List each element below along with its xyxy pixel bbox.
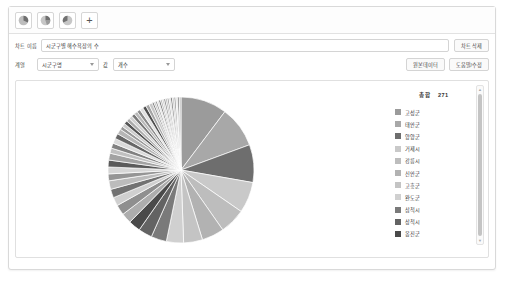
legend-color-swatch [395, 182, 401, 188]
legend-item[interactable]: 상척시 [395, 216, 482, 228]
value-select-value: 개수 [118, 61, 128, 68]
legend-color-swatch [395, 207, 401, 213]
chart-editor-window: + 차트 이름 시군구별 해수욕장의 수 차트 삭제 계열 시군구명 값 개수 … [8, 6, 496, 270]
legend-item[interactable]: 신안군 [395, 167, 482, 179]
series-select-value: 시군구명 [42, 61, 62, 68]
scroll-down-arrow-icon[interactable]: ▼ [477, 237, 483, 244]
legend-total-label: 총합 [419, 92, 430, 98]
pie-chart-icon [40, 15, 51, 26]
value-select[interactable]: 개수 [113, 58, 175, 71]
legend-item-label: 상척시 [405, 218, 420, 225]
legend-item[interactable]: 태안군 [395, 118, 482, 130]
chart-name-label: 차트 이름 [15, 42, 41, 49]
legend-color-swatch [395, 194, 401, 200]
legend-item-label: 양양군 [405, 133, 420, 140]
legend-total-value: 271 [438, 92, 449, 98]
scrollbar-thumb[interactable] [478, 94, 482, 236]
legend-item-label: 강릉시 [405, 157, 420, 164]
legend-color-swatch [395, 121, 401, 127]
legend-item[interactable]: 완도군 [395, 191, 482, 203]
legend-scrollbar[interactable]: ▲ ▼ [476, 85, 484, 245]
legend-item-label: 고성군 [405, 109, 420, 116]
legend-item[interactable]: 옹진군 [395, 228, 482, 240]
legend-color-swatch [395, 170, 401, 176]
legend-item-label: 신안군 [405, 170, 420, 177]
chart-legend: 총합 271 고성군태안군양양군거제시강릉시신안군고흥군완도군삼척시상척시옹진군 [386, 86, 482, 252]
legend-item-label: 삼척시 [405, 206, 420, 213]
chevron-down-icon [166, 63, 170, 66]
chart-type-toolbar: + [9, 7, 495, 34]
legend-color-swatch [395, 231, 401, 237]
legend-total: 총합 271 [386, 91, 482, 99]
legend-item[interactable]: 고흥군 [395, 179, 482, 191]
pie-chart-area [44, 87, 334, 253]
chart-config-form: 차트 이름 시군구별 해수욕장의 수 차트 삭제 계열 시군구명 값 개수 원본… [9, 34, 495, 78]
legend-list: 고성군태안군양양군거제시강릉시신안군고흥군완도군삼척시상척시옹진군 [386, 106, 482, 240]
legend-color-swatch [395, 158, 401, 164]
legend-color-swatch [395, 219, 401, 225]
pie-chart-type-2-button[interactable] [37, 12, 54, 29]
series-label: 계열 [15, 61, 37, 68]
legend-item[interactable]: 삼척시 [395, 204, 482, 216]
legend-item-label: 완도군 [405, 194, 420, 201]
scroll-up-arrow-icon[interactable]: ▲ [477, 86, 483, 93]
legend-item[interactable]: 거제시 [395, 143, 482, 155]
legend-color-swatch [395, 133, 401, 139]
chart-canvas-panel: 총합 271 고성군태안군양양군거제시강릉시신안군고흥군완도군삼척시상척시옹진군… [15, 80, 489, 258]
secondary-actions: 원본데이터 도움말/수정 [406, 58, 489, 71]
legend-item[interactable]: 고성군 [395, 106, 482, 118]
legend-item-label: 고흥군 [405, 182, 420, 189]
chart-name-row: 차트 이름 시군구별 해수욕장의 수 차트 삭제 [15, 38, 489, 53]
chevron-down-icon [90, 63, 94, 66]
legend-item[interactable]: 양양군 [395, 130, 482, 142]
pie-chart[interactable] [106, 95, 256, 245]
series-value-row: 계열 시군구명 값 개수 원본데이터 도움말/수정 [15, 57, 489, 72]
pie-chart-icon [18, 15, 29, 26]
legend-item[interactable]: 강릉시 [395, 155, 482, 167]
series-select[interactable]: 시군구명 [37, 58, 99, 71]
pie-chart-type-3-button[interactable] [59, 12, 76, 29]
value-label: 값 [99, 61, 113, 68]
pie-chart-type-1-button[interactable] [15, 12, 32, 29]
legend-item-label: 태안군 [405, 121, 420, 128]
chart-name-input[interactable]: 시군구별 해수욕장의 수 [41, 39, 449, 52]
legend-color-swatch [395, 109, 401, 115]
legend-item-label: 거제시 [405, 145, 420, 152]
legend-item-label: 옹진군 [405, 230, 420, 237]
source-data-button[interactable]: 원본데이터 [406, 58, 445, 71]
pie-chart-icon [62, 15, 73, 26]
add-chart-button[interactable]: + [81, 12, 98, 29]
legend-color-swatch [395, 146, 401, 152]
delete-chart-button[interactable]: 차트 삭제 [454, 39, 489, 52]
help-edit-button[interactable]: 도움말/수정 [449, 58, 489, 71]
